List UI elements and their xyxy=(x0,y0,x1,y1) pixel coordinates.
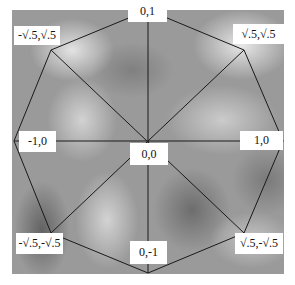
vertex-label-bottom: 0,-1 xyxy=(130,241,167,264)
vertex-label-bottom-left: -√.5,-√.5 xyxy=(16,233,63,254)
vertex-label-bottom-right: √.5,-√.5 xyxy=(235,233,283,254)
vertex-label-top-left: -√.5,√.5 xyxy=(14,26,60,45)
vertex-label-right: 1,0 xyxy=(240,131,283,150)
center-label: 0,0 xyxy=(130,143,168,165)
vertex-label-top: 0,1 xyxy=(128,0,167,22)
octagon-diagram: 0,1 √.5,√.5 1,0 √.5,-√.5 0,-1 -√.5,-√.5 … xyxy=(0,0,295,285)
vertex-label-top-right: √.5,√.5 xyxy=(233,24,284,44)
vertex-label-left: -1,0 xyxy=(19,131,56,152)
